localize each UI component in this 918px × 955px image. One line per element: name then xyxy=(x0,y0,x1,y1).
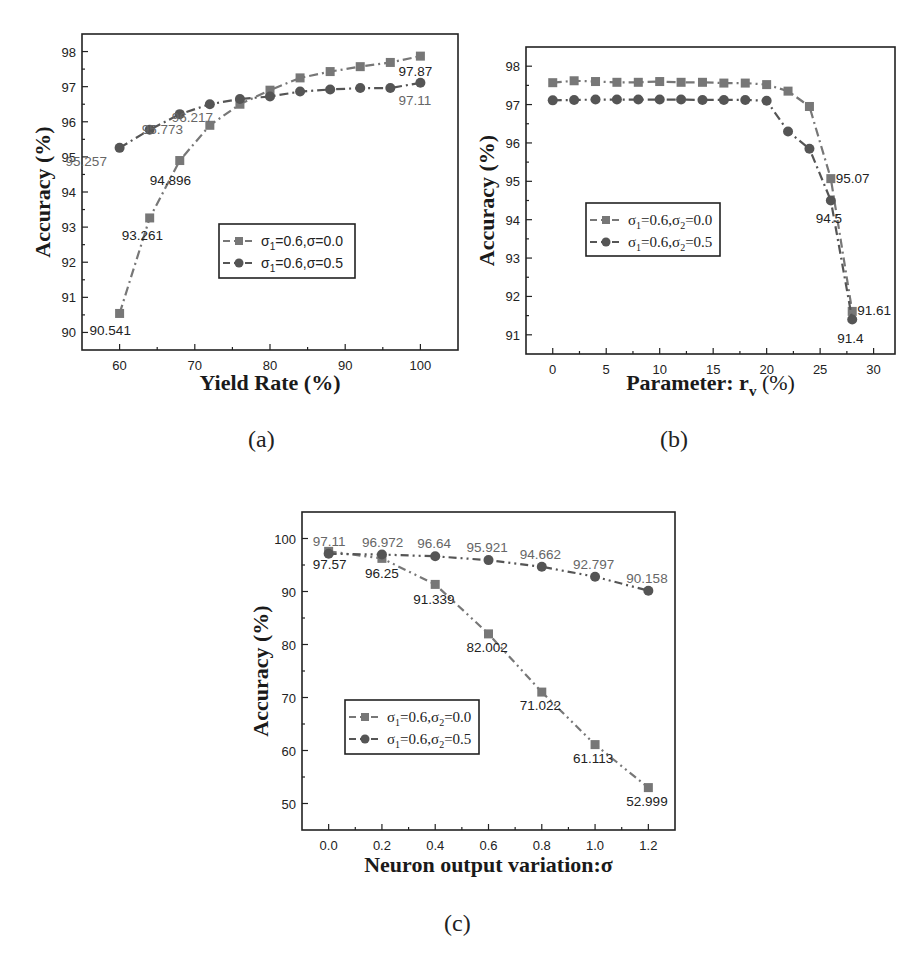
y-tick-label: 97 xyxy=(506,98,520,113)
y-tick-label: 97 xyxy=(62,80,76,95)
chart-panel-c: 0.00.20.40.60.81.01.25060708090100Accura… xyxy=(230,470,690,890)
circle-marker xyxy=(804,144,814,154)
legend-square-icon xyxy=(361,713,369,721)
y-tick-label: 93 xyxy=(62,220,76,235)
square-marker xyxy=(416,52,425,61)
data-label: 97.57 xyxy=(313,557,347,572)
data-label: 91.4 xyxy=(837,331,864,346)
square-marker xyxy=(591,740,600,749)
circle-marker xyxy=(612,95,622,105)
circle-marker xyxy=(235,94,245,104)
data-label: 82.002 xyxy=(467,640,508,655)
square-marker xyxy=(826,174,835,183)
data-label: 91.61 xyxy=(857,303,891,318)
circle-marker xyxy=(537,562,547,572)
circle-marker xyxy=(697,95,707,105)
circle-marker xyxy=(325,84,335,94)
y-tick-label: 60 xyxy=(282,744,296,759)
x-tick-label: 0.6 xyxy=(479,838,497,853)
circle-marker xyxy=(643,586,653,596)
data-label: 95.921 xyxy=(467,540,508,555)
circle-marker xyxy=(569,95,579,105)
x-tick-label: 1.0 xyxy=(586,838,604,853)
x-tick-label: 30 xyxy=(866,362,880,377)
series-line-sigma2-0.0 xyxy=(553,81,852,312)
square-marker xyxy=(634,78,643,87)
y-tick-label: 50 xyxy=(282,797,296,812)
data-label: 97.11 xyxy=(398,93,431,108)
square-marker xyxy=(612,78,621,87)
data-label: 92.797 xyxy=(573,557,614,572)
circle-marker xyxy=(847,314,857,324)
legend-square-icon xyxy=(602,216,610,224)
x-axis-title: Neuron output variation:σ xyxy=(364,852,613,877)
y-tick-label: 90 xyxy=(282,585,296,600)
square-marker xyxy=(115,309,124,318)
circle-marker xyxy=(655,95,665,105)
plot-frame xyxy=(82,34,458,350)
circle-marker xyxy=(484,555,494,565)
x-axis-title: Parameter: rv (%) xyxy=(626,370,795,399)
circle-marker xyxy=(719,95,729,105)
square-marker xyxy=(326,67,335,76)
y-axis-title: Accuracy (%) xyxy=(248,605,273,736)
data-label: 96.64 xyxy=(417,536,451,551)
data-label: 94.662 xyxy=(520,547,561,562)
data-label: 71.022 xyxy=(520,698,561,713)
data-label: 94.896 xyxy=(150,173,191,188)
x-tick-label: 0.2 xyxy=(373,838,391,853)
circle-marker xyxy=(762,96,772,106)
caption-c: (c) xyxy=(444,910,471,937)
y-tick-label: 98 xyxy=(506,59,520,74)
data-label: 90.158 xyxy=(626,571,667,586)
data-label: 97.87 xyxy=(398,64,432,79)
circle-marker xyxy=(783,126,793,136)
circle-marker xyxy=(591,95,601,105)
y-axis-title: Accuracy (%) xyxy=(474,135,499,266)
square-marker xyxy=(431,580,440,589)
chart-c-plot: 0.00.20.40.60.81.01.25060708090100Accura… xyxy=(230,470,690,890)
x-tick-label: 0.0 xyxy=(320,838,338,853)
circle-marker xyxy=(115,143,125,153)
square-marker xyxy=(570,76,579,85)
square-marker xyxy=(644,783,653,792)
square-marker xyxy=(386,58,395,67)
circle-marker xyxy=(415,78,425,88)
x-tick-label: 0.4 xyxy=(426,838,444,853)
square-marker xyxy=(698,78,707,87)
y-tick-label: 92 xyxy=(62,255,76,270)
y-tick-label: 90 xyxy=(62,325,76,340)
data-label: 52.999 xyxy=(626,794,667,809)
circle-marker xyxy=(826,196,836,206)
y-tick-label: 96 xyxy=(62,115,76,130)
data-label: 97.11 xyxy=(313,534,346,549)
y-tick-label: 94 xyxy=(62,185,76,200)
square-marker xyxy=(548,78,557,87)
square-marker xyxy=(537,688,546,697)
plot-frame xyxy=(526,47,895,354)
chart-panel-b: 0510152025309192939495969798Accuracy (%)… xyxy=(460,0,918,470)
data-label: 94.5 xyxy=(816,211,842,226)
circle-marker xyxy=(676,95,686,105)
x-tick-label: 0 xyxy=(549,362,556,377)
y-tick-label: 80 xyxy=(282,638,296,653)
square-marker xyxy=(784,87,793,96)
circle-marker xyxy=(265,91,275,101)
square-marker xyxy=(175,156,184,165)
x-axis-title: Yield Rate (%) xyxy=(200,370,341,395)
data-label: 93.261 xyxy=(122,228,163,243)
data-label: 61.113 xyxy=(573,751,613,766)
legend-square-icon xyxy=(235,237,243,245)
square-marker xyxy=(591,77,600,86)
circle-marker xyxy=(205,99,215,109)
y-tick-label: 92 xyxy=(506,289,520,304)
square-marker xyxy=(805,102,814,111)
square-marker xyxy=(719,79,728,88)
y-axis-title: Accuracy (%) xyxy=(30,126,55,257)
circle-marker xyxy=(548,95,558,105)
y-tick-label: 91 xyxy=(62,290,76,305)
circle-marker xyxy=(377,550,387,560)
square-marker xyxy=(356,62,365,71)
x-tick-label: 25 xyxy=(813,362,827,377)
data-label: 90.541 xyxy=(90,323,131,338)
